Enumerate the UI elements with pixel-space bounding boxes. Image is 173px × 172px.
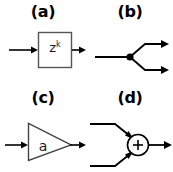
sum-input-arrow-upper — [90, 124, 134, 140]
figure-block-diagram-elements: (a) zk (b) — [0, 0, 173, 172]
gain-block-label: a — [28, 138, 58, 154]
panel-b-branch-node: (b) — [87, 0, 173, 86]
branch-output-arrow-upper — [130, 40, 169, 57]
branch-output-arrow-lower — [130, 57, 169, 74]
delay-input-arrow — [9, 47, 38, 54]
panel-a-delay-block: (a) zk — [0, 0, 86, 86]
panel-c-gain-block: (c) a — [0, 86, 86, 172]
delay-output-arrow — [72, 47, 86, 54]
sum-output-arrow — [149, 141, 172, 149]
delay-block-label: zk — [38, 40, 72, 55]
branch-node-diagram — [87, 0, 173, 86]
gain-block-diagram — [0, 86, 86, 172]
panel-d-summing-junction: (d) — [87, 86, 173, 172]
gain-output-arrow — [70, 142, 86, 149]
sum-input-arrow-lower — [90, 151, 134, 167]
delay-block-exponent: k — [56, 40, 61, 49]
gain-input-arrow — [5, 142, 28, 149]
summing-junction-diagram — [87, 86, 173, 172]
